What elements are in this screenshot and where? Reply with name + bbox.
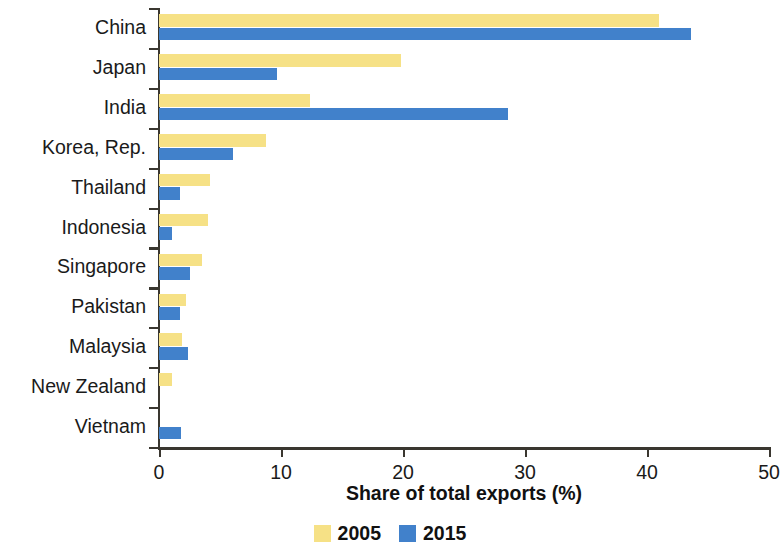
x-axis-tick-label: 30 <box>495 461 555 484</box>
bar-group <box>159 128 769 167</box>
x-axis-tick-label: 50 <box>739 461 780 484</box>
y-axis-label-india: India <box>104 88 146 127</box>
x-axis-tick <box>769 447 771 457</box>
bar-group <box>159 168 769 207</box>
legend-swatch-icon <box>399 525 416 542</box>
y-axis-label-china: China <box>95 8 146 47</box>
y-axis-tick <box>149 168 158 170</box>
y-axis-tick <box>149 447 158 449</box>
y-axis-label-malaysia: Malaysia <box>69 327 146 366</box>
y-axis-tick <box>149 88 158 90</box>
y-axis-label-singapore: Singapore <box>57 247 146 286</box>
y-axis-category-labels: ChinaJapanIndiaKorea, Rep.ThailandIndone… <box>0 8 152 447</box>
bar-group <box>159 407 769 446</box>
y-axis-label-new-zealand: New Zealand <box>31 367 146 406</box>
bar-2005 <box>159 294 186 307</box>
x-axis-line <box>158 447 770 450</box>
bar-2005 <box>159 373 172 386</box>
y-axis-label-pakistan: Pakistan <box>71 287 146 326</box>
y-axis-tick <box>149 407 158 409</box>
bar-2015 <box>159 68 277 81</box>
x-axis-tick <box>525 447 527 457</box>
legend-swatch-icon <box>314 525 331 542</box>
y-axis-tick <box>149 287 158 289</box>
bar-group <box>159 88 769 127</box>
bar-2015 <box>159 307 180 320</box>
chart-legend: 20052015 <box>0 524 780 543</box>
y-axis-tick <box>149 8 158 10</box>
bar-group <box>159 287 769 326</box>
bar-2015 <box>159 427 181 440</box>
bar-2005 <box>159 134 266 147</box>
y-axis-label-vietnam: Vietnam <box>75 407 146 446</box>
bar-chart-figure: ChinaJapanIndiaKorea, Rep.ThailandIndone… <box>0 0 780 554</box>
y-axis-label-indonesia: Indonesia <box>61 208 146 247</box>
legend-item-2005[interactable]: 2005 <box>314 524 381 543</box>
y-axis-tick <box>149 327 158 329</box>
bar-2015 <box>159 267 190 280</box>
x-axis-title: Share of total exports (%) <box>159 482 769 505</box>
bar-group <box>159 247 769 286</box>
bar-2015 <box>159 108 508 121</box>
x-axis-tick-label: 40 <box>617 461 677 484</box>
plot-area: 01020304050 <box>159 8 769 447</box>
y-axis-tick <box>149 247 158 249</box>
y-axis-tick <box>149 128 158 130</box>
bar-2005 <box>159 214 208 227</box>
bar-2005 <box>159 333 182 346</box>
bar-group <box>159 367 769 406</box>
bar-group <box>159 48 769 87</box>
y-axis-tick <box>149 48 158 50</box>
bar-group <box>159 327 769 366</box>
bar-2015 <box>159 28 691 41</box>
x-axis-tick-label: 10 <box>251 461 311 484</box>
y-axis-tick <box>149 367 158 369</box>
x-axis-tick-label: 20 <box>373 461 433 484</box>
x-axis-tick-label: 0 <box>129 461 189 484</box>
bar-2015 <box>159 227 172 240</box>
x-axis-tick <box>403 447 405 457</box>
x-axis-tick <box>281 447 283 457</box>
legend-item-2015[interactable]: 2015 <box>399 524 466 543</box>
y-axis-label-japan: Japan <box>93 48 146 87</box>
bar-2005 <box>159 94 310 107</box>
x-axis-tick <box>647 447 649 457</box>
x-axis-tick <box>159 447 161 457</box>
bar-2005 <box>159 254 202 267</box>
legend-label: 2015 <box>423 524 466 543</box>
bar-group <box>159 208 769 247</box>
bar-2015 <box>159 347 188 360</box>
y-axis-label-thailand: Thailand <box>71 168 146 207</box>
bar-2015 <box>159 187 180 200</box>
y-axis-label-korea-rep: Korea, Rep. <box>42 128 146 167</box>
bar-2005 <box>159 174 210 187</box>
y-axis-tick <box>149 208 158 210</box>
bar-group <box>159 8 769 47</box>
bar-2005 <box>159 54 401 67</box>
legend-label: 2005 <box>338 524 381 543</box>
bar-2015 <box>159 148 233 161</box>
bar-2005 <box>159 14 659 27</box>
